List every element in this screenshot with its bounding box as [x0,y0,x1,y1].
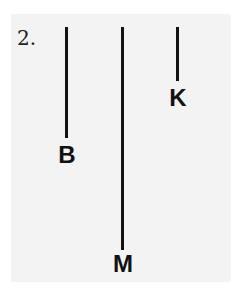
label-b: B [58,143,75,167]
diagram-canvas: 2. B M K [0,0,233,293]
line-b [65,27,68,138]
line-m [121,27,124,250]
problem-number: 2. [17,28,36,48]
label-k: K [169,86,186,110]
label-m: M [113,252,133,276]
line-k [176,27,179,81]
